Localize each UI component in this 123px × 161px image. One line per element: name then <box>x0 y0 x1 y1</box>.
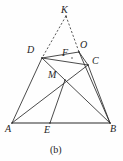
point-label-M: M <box>48 70 56 80</box>
vertex-point-K <box>65 15 66 16</box>
point-label-K: K <box>61 5 68 15</box>
figure-caption: (b) <box>50 144 62 155</box>
geometry-figure: KDFOCMAEB (b) <box>0 0 123 161</box>
segment-EM <box>50 80 65 123</box>
segment-DB <box>42 58 110 123</box>
vertex-point-M <box>64 79 65 80</box>
vertices-layer <box>11 15 110 123</box>
point-label-C: C <box>92 56 99 66</box>
geometry-canvas <box>0 0 123 161</box>
point-label-F: F <box>62 48 68 58</box>
vertex-point-A <box>11 122 12 123</box>
segment-BC <box>88 65 110 123</box>
point-label-B: B <box>110 124 116 134</box>
segment-AD <box>12 58 42 123</box>
point-label-O: O <box>80 40 87 50</box>
vertex-point-D <box>41 57 42 58</box>
vertex-point-C <box>87 64 88 65</box>
point-label-D: D <box>27 45 34 55</box>
point-label-A: A <box>5 124 11 134</box>
segment-DO <box>42 52 79 58</box>
segment-DC <box>42 58 88 65</box>
segments-layer <box>12 16 110 123</box>
vertex-point-F <box>71 57 72 58</box>
point-label-E: E <box>44 125 50 135</box>
vertex-point-O <box>78 51 79 52</box>
